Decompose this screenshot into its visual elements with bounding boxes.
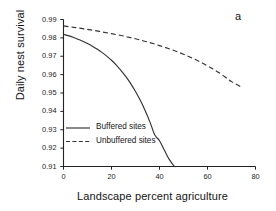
y-tick-label: 0.91 (31, 162, 57, 171)
series-line-unbuffered-sites (64, 26, 243, 88)
y-axis-title: Daily nest survival (14, 0, 26, 135)
axis-ticks (60, 20, 255, 170)
y-tick-label: 0.94 (31, 106, 57, 115)
legend-label: Buffered sites (96, 122, 146, 131)
y-tick-label: 0.93 (31, 125, 57, 134)
series-lines (64, 26, 243, 167)
x-axis-title: Landscape percent agriculture (40, 190, 265, 202)
y-tick-label: 0.99 (31, 15, 57, 24)
panel-label: a (235, 10, 241, 22)
legend-label: Unbuffered sites (96, 136, 155, 145)
x-tick-label: 0 (52, 172, 76, 181)
axis-lines (64, 20, 256, 167)
legend-line-samples (66, 128, 90, 142)
y-tick-label: 0.97 (31, 51, 57, 60)
x-tick-label: 80 (244, 172, 268, 181)
y-tick-label: 0.98 (31, 33, 57, 42)
y-tick-label: 0.95 (31, 88, 57, 97)
x-tick-label: 60 (196, 172, 220, 181)
figure-panel-a: Daily nest survival Landscape percent ag… (0, 0, 276, 211)
y-tick-label: 0.96 (31, 70, 57, 79)
x-tick-label: 40 (148, 172, 172, 181)
x-tick-label: 20 (100, 172, 124, 181)
series-line-buffered-sites (64, 34, 176, 166)
y-tick-label: 0.92 (31, 143, 57, 152)
